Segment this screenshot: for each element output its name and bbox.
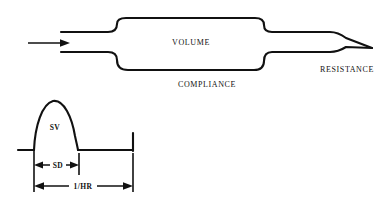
sd-measure-arrow: SD <box>34 158 79 171</box>
resistance-label: RESISTANCE <box>320 65 374 74</box>
volume-label: VOLUME <box>172 38 210 47</box>
windkessel-figure: VOLUME COMPLIANCE RESISTANCE SV SD <box>0 0 385 208</box>
inflow-arrow-icon <box>28 39 70 47</box>
stroke-volume-label: SV <box>50 123 61 132</box>
hr-label: 1/HR <box>73 182 92 191</box>
compliance-label: COMPLIANCE <box>178 80 236 89</box>
figure-canvas: VOLUME COMPLIANCE RESISTANCE SV SD <box>0 0 385 208</box>
hr-measure-arrow: 1/HR <box>34 179 133 192</box>
upper-wall-path <box>61 18 372 48</box>
sd-label: SD <box>53 161 64 170</box>
